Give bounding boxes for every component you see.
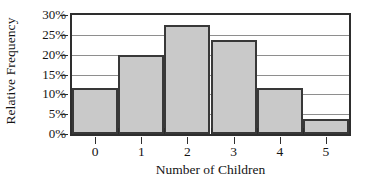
x-tick-label: 5: [306, 145, 346, 159]
bar-5: [303, 119, 349, 134]
y-axis-tick-labels: 30%25%20%15%10%5%0%: [20, 0, 66, 183]
x-tick-mark: [95, 137, 96, 144]
bar-4: [257, 88, 303, 134]
plot-area: [70, 13, 351, 136]
x-tick-label: 0: [75, 145, 115, 159]
x-axis-title: Number of Children: [70, 162, 351, 178]
x-axis-separator: [211, 128, 212, 134]
y-tick-mark: [60, 55, 68, 56]
bar-1: [118, 55, 164, 134]
x-tick-label: 3: [214, 145, 254, 159]
x-tick-mark: [187, 137, 188, 144]
bar-3: [211, 40, 257, 134]
x-axis-separator: [303, 128, 304, 134]
bar-2: [164, 25, 210, 134]
x-tick-label: 2: [167, 145, 207, 159]
y-tick-mark: [60, 134, 68, 135]
x-tick-mark: [280, 137, 281, 144]
y-tick-mark: [60, 15, 68, 16]
y-tick-mark: [60, 114, 68, 115]
x-axis-separator: [164, 128, 165, 134]
x-axis-separator: [257, 128, 258, 134]
plot-inner: [72, 15, 349, 134]
x-axis-separator: [118, 128, 119, 134]
y-tick-mark: [60, 35, 68, 36]
x-tick-mark: [326, 137, 327, 144]
y-axis-title: Relative Frequency: [3, 1, 21, 141]
x-tick-label: 4: [260, 145, 300, 159]
x-tick-label: 1: [121, 145, 161, 159]
y-tick-mark: [60, 94, 68, 95]
x-tick-mark: [141, 137, 142, 144]
x-tick-mark: [234, 137, 235, 144]
histogram-chart: Relative Frequency 30%25%20%15%10%5%0% 0…: [0, 0, 369, 183]
y-tick-mark: [60, 75, 68, 76]
gridline: [72, 35, 349, 36]
bar-0: [72, 88, 118, 134]
